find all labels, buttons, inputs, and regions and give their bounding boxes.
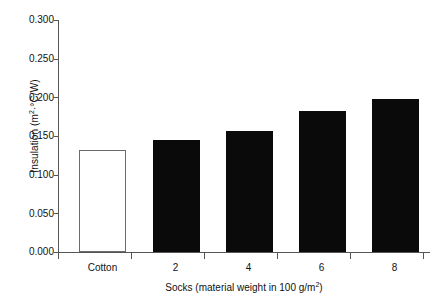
x-axis-title-main: Socks (material weight in 100 g/m [165,282,315,293]
y-ticklabel: 0.200 [14,93,54,103]
x-ticklabel-cotton: Cotton [66,262,139,274]
x-axis-tick [204,253,205,259]
y-ticklabel: 0.000 [14,247,54,257]
y-ticklabel: 0.300 [14,15,54,25]
bars-layer [58,20,430,252]
x-axis-tick [58,253,59,259]
x-ticklabel-6: 6 [285,262,358,274]
y-ticklabel: 0.250 [14,54,54,64]
x-ticklabel-2: 2 [139,262,212,274]
y-axis-ticklabels: 0.300 0.250 0.200 0.150 0.100 0.050 0.00… [14,0,54,299]
bar-cotton [79,150,126,252]
bar-6 [299,111,346,253]
x-axis-title: Socks (material weight in 100 g/m2) [58,279,430,294]
bar-chart: Insulation (m2·°C/W) 0.300 0.250 0.200 0… [0,0,438,299]
x-axis-line [58,252,430,253]
x-axis-tick [423,253,424,259]
bar-4 [226,131,273,252]
x-axis-tick [350,253,351,259]
y-ticklabel: 0.150 [14,131,54,141]
bar-2 [153,140,200,252]
y-ticklabel: 0.100 [14,170,54,180]
bar-8 [372,99,419,252]
x-axis-title-tail: ) [319,282,322,293]
x-axis-tick [131,253,132,259]
y-ticklabel: 0.050 [14,209,54,219]
x-ticklabel-8: 8 [358,262,431,274]
x-axis-ticklabels: Cotton 2 4 6 8 [58,262,430,276]
x-axis-tick [277,253,278,259]
x-ticklabel-4: 4 [212,262,285,274]
